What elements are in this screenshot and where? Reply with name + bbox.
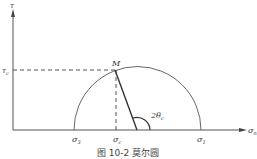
angle-arc	[133, 117, 150, 130]
angle-label: 2θc	[150, 111, 164, 121]
y-axis-arrow-icon	[11, 9, 15, 17]
mohr-semicircle	[74, 67, 201, 130]
sigma-c-label: σc	[113, 135, 121, 145]
y-axis-label: τ	[10, 2, 14, 10]
sigma-3-label: σ3	[72, 135, 81, 145]
figure-caption: 图 10-2 莫尔圆	[97, 147, 159, 158]
point-m-label: M	[111, 59, 121, 68]
radius-line	[115, 70, 137, 130]
mohr-circle-diagram: τ σn τc M σ3 σc σ1 2θc 图 10-2 莫尔圆	[0, 0, 257, 159]
x-axis-label: σn	[248, 126, 257, 136]
x-axis-arrow-icon	[239, 128, 247, 132]
tau-c-label: τc	[2, 67, 9, 76]
sigma-1-label: σ1	[197, 135, 206, 145]
